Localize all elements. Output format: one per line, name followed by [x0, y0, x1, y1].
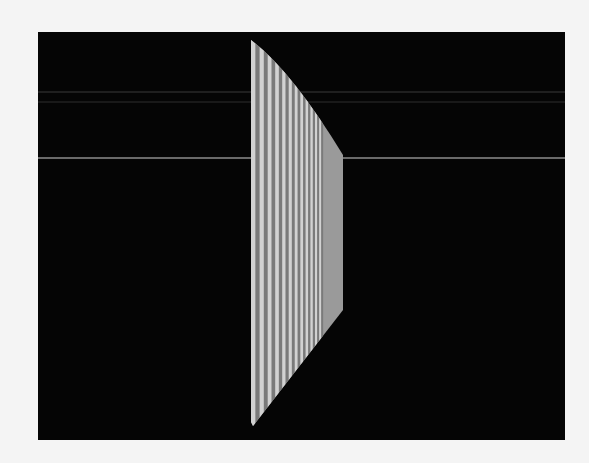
chirp-stripes [251, 40, 343, 426]
striped-shape-figure [0, 0, 589, 463]
